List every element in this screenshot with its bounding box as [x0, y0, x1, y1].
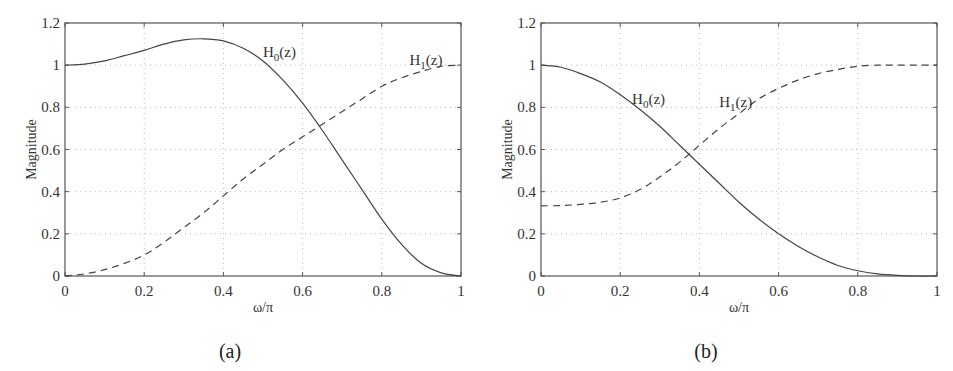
y-tick-label: 1.2	[41, 15, 60, 31]
h0-label: H0(z)	[263, 44, 296, 63]
y-axis-label: Magnitude	[24, 119, 39, 180]
y-tick-label: 0.6	[517, 142, 536, 158]
grid	[541, 23, 937, 276]
y-tick-label: 1	[53, 57, 61, 73]
x-axis-label: ω/π	[253, 300, 273, 315]
y-tick-label: 1.2	[517, 15, 536, 31]
y-tick-label: 0.8	[517, 99, 536, 115]
x-tick-label: 0.2	[135, 283, 154, 299]
h1-label: H1(z)	[719, 94, 752, 113]
panel-caption: (b)	[694, 340, 717, 363]
x-tick-label: 0.8	[848, 283, 867, 299]
y-tick-label: 0.2	[517, 226, 536, 242]
x-tick-label: 1	[457, 283, 465, 299]
figure: 00.20.40.60.8100.20.40.60.811.2ω/πMagnit…	[0, 0, 953, 371]
panel-caption: (a)	[219, 340, 241, 363]
y-tick-label: 0.4	[517, 184, 536, 200]
y-tick-label: 0	[529, 268, 537, 284]
x-tick-label: 0	[61, 283, 69, 299]
x-tick-label: 0.2	[611, 283, 630, 299]
y-tick-label: 1	[529, 57, 537, 73]
y-axis-label: Magnitude	[500, 119, 515, 180]
x-tick-label: 0	[537, 283, 545, 299]
h0-curve	[65, 39, 461, 276]
ticks	[541, 23, 937, 276]
axes-box	[541, 23, 937, 276]
x-tick-label: 0.4	[214, 283, 233, 299]
y-tick-label: 0	[53, 268, 61, 284]
x-tick-label: 0.6	[293, 283, 312, 299]
y-tick-label: 0.2	[41, 226, 60, 242]
panel-a: 00.20.40.60.8100.20.40.60.811.2ω/πMagnit…	[24, 15, 465, 363]
y-tick-label: 0.8	[41, 99, 60, 115]
y-tick-label: 0.4	[41, 184, 60, 200]
x-tick-label: 1	[933, 283, 941, 299]
h1-label: H1(z)	[410, 52, 443, 71]
x-tick-label: 0.6	[769, 283, 788, 299]
y-tick-label: 0.6	[41, 142, 60, 158]
x-tick-label: 0.8	[372, 283, 391, 299]
panel-b: 00.20.40.60.8100.20.40.60.811.2ω/πMagnit…	[500, 15, 941, 363]
x-axis-label: ω/π	[729, 300, 749, 315]
h1-curve	[541, 65, 937, 206]
x-tick-label: 0.4	[690, 283, 709, 299]
